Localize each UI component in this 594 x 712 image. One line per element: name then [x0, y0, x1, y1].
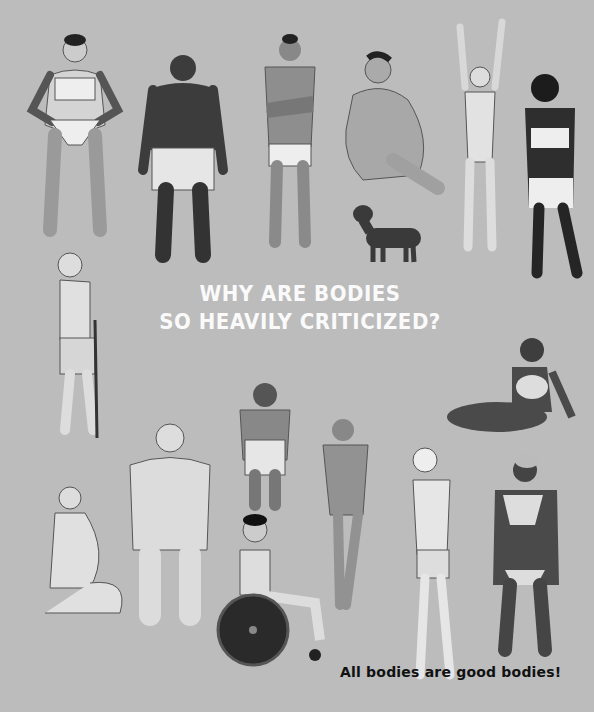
illustration-dachshund [348, 200, 428, 265]
illustration-man-crossed-arms [255, 32, 325, 247]
page-caption: All bodies are good bodies! [340, 664, 590, 680]
illustration-woman-arms-raised [450, 22, 510, 252]
page-heading: WHY ARE BODIES SO HEAVILY CRITICIZED? [150, 280, 450, 336]
illustration-man-with-glasses [405, 445, 470, 685]
illustration-woman-head-bowed [515, 68, 590, 280]
illustration-short-stature-person [235, 380, 295, 508]
heading-line-1: WHY ARE BODIES [150, 280, 450, 308]
book-page: WHY ARE BODIES SO HEAVILY CRITICIZED? [0, 0, 594, 712]
illustration-seated-person [338, 50, 448, 195]
illustration-lounging-woman [442, 332, 587, 437]
illustration-man-back-view [138, 50, 228, 260]
heading-line-2: SO HEAVILY CRITICIZED? [150, 308, 450, 336]
illustration-wheelchair-user [215, 515, 335, 670]
illustration-elderly-man-with-cane [45, 250, 120, 440]
illustration-woman-grey-hair [485, 455, 575, 655]
illustration-plus-size-woman [115, 420, 225, 620]
illustration-woman-hands-on-hips [20, 30, 130, 240]
